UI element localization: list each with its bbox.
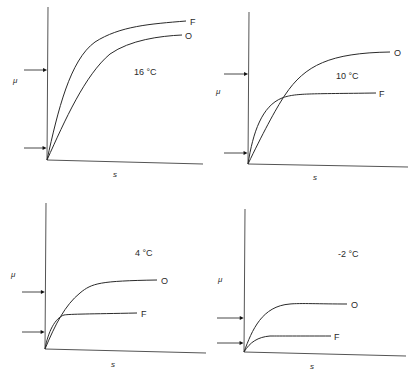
y-axis <box>244 209 245 352</box>
curve-label-f: F <box>379 89 385 99</box>
panel-minus2c: OF-2 °Cμs <box>217 209 406 371</box>
x-axis <box>244 352 406 356</box>
curve-o <box>47 35 182 160</box>
temperature-label: 4 °C <box>135 248 153 258</box>
y-axis <box>248 12 249 164</box>
panel-4c: OF4 °Cμs <box>10 203 206 369</box>
x-axis-label: s <box>310 362 314 371</box>
curve-label-f: F <box>334 332 340 342</box>
lower-arrow-icon <box>224 151 248 155</box>
y-axis <box>45 203 46 349</box>
temperature-label: 16 °C <box>134 67 157 77</box>
lower-arrow-icon <box>22 330 45 334</box>
curve-label-o: O <box>161 276 168 286</box>
lower-arrow-icon <box>24 146 47 150</box>
upper-arrow-icon <box>217 316 244 320</box>
lower-arrow-icon <box>217 341 244 345</box>
temperature-label: 10 °C <box>336 71 359 81</box>
curve-label-f: F <box>141 309 147 319</box>
upper-arrow-icon <box>24 68 47 72</box>
curve-o <box>248 52 390 164</box>
curve-o <box>244 304 347 352</box>
curve-label-f: F <box>190 17 196 27</box>
curve-f <box>248 93 376 164</box>
x-axis <box>248 164 408 167</box>
temperature-label: -2 °C <box>338 249 359 259</box>
x-axis <box>45 349 206 353</box>
curve-f <box>244 336 331 352</box>
y-axis-label: μ <box>12 76 18 85</box>
y-axis-label: μ <box>217 275 223 284</box>
x-axis-label: s <box>313 173 317 182</box>
curve-label-o: O <box>394 48 401 58</box>
curve-f <box>45 313 137 349</box>
x-axis-label: s <box>111 360 115 369</box>
curve-label-o: O <box>185 31 192 41</box>
figure-canvas: FO16 °Cμs OF10 °Cμs OF4 °Cμs OF-2 °Cμs <box>0 0 414 376</box>
curve-label-o: O <box>351 300 358 310</box>
y-axis-label: μ <box>215 87 221 96</box>
panel-10c: OF10 °Cμs <box>215 12 408 182</box>
x-axis <box>47 160 203 164</box>
x-axis-label: s <box>113 170 117 179</box>
upper-arrow-icon <box>224 72 248 76</box>
panel-16c: FO16 °Cμs <box>12 7 203 179</box>
curve-f <box>47 21 186 160</box>
y-axis <box>47 7 48 160</box>
upper-arrow-icon <box>22 290 45 294</box>
y-axis-label: μ <box>10 270 16 279</box>
